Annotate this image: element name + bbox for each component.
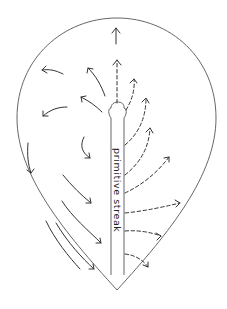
arrow-curl-down (82, 137, 90, 158)
arrow-upper-left-inner (88, 68, 105, 96)
arrow-mid-left-outer (43, 107, 67, 116)
arrow-mid-left-inner (81, 97, 102, 112)
primitive-streak-label: primitive streak (112, 148, 123, 232)
primitive-streak-diagram: primitive streak (0, 0, 227, 309)
arrow-lower-left-1 (63, 175, 91, 203)
dashed-arrow-lower-right-1 (125, 231, 161, 236)
solid-arrows (27, 28, 120, 269)
arrow-bottom-left-long (46, 221, 80, 269)
dashed-arrow-upper-right-3 (125, 128, 150, 175)
arrow-lower-left-3 (56, 223, 94, 269)
dashed-arrow-upper-right-2 (125, 98, 146, 145)
dashed-arrow-mid-right-1 (125, 157, 169, 193)
arrow-lower-left-2 (62, 201, 101, 243)
dashed-arrow-mid-right-2 (125, 203, 180, 213)
dashed-arrow-lower-right-2 (125, 254, 148, 267)
dashed-arrow-upper-right-1 (126, 79, 134, 110)
